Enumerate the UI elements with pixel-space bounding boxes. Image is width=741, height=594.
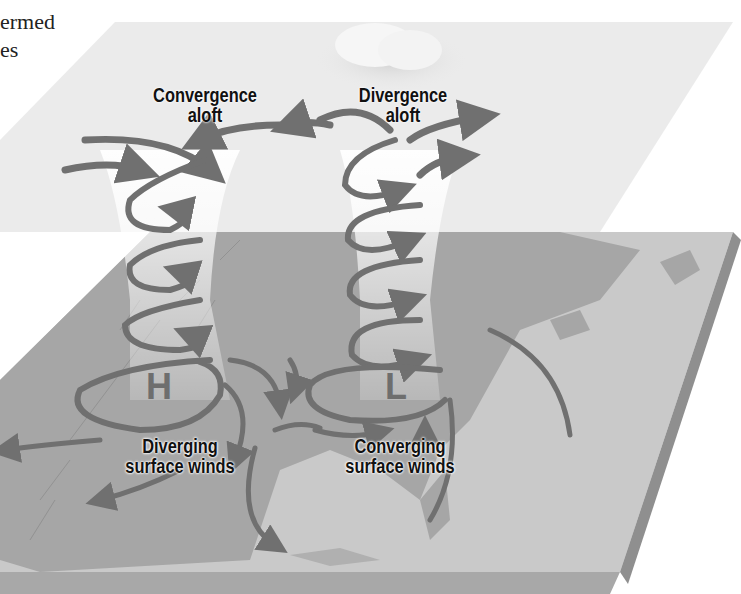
- label-divergence-aloft: Divergence aloft: [317, 85, 489, 125]
- low-pressure-symbol: L: [385, 366, 407, 408]
- label-diverging-surface-winds: Diverging surface winds: [82, 436, 279, 476]
- label-convergence-aloft: Convergence aloft: [119, 85, 291, 125]
- high-pressure-symbol: H: [146, 366, 172, 408]
- label-converging-surface-winds: Converging surface winds: [302, 436, 499, 476]
